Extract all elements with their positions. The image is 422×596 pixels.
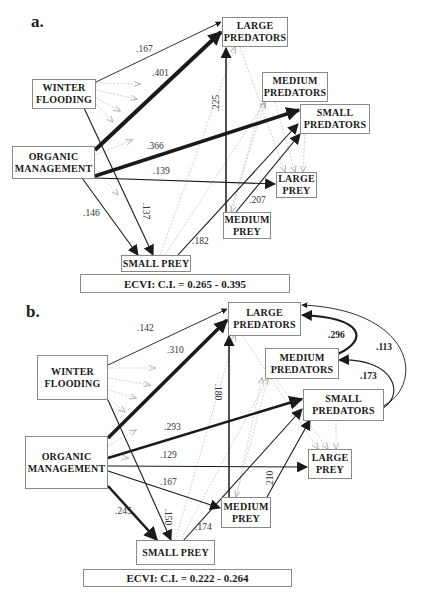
path-coef: .245 [115,506,132,516]
fit-index-box-b: ECVI: C.I. = 0.222 - 0.264 [83,569,292,587]
path-coef: .129 [160,450,177,460]
node-medium-prey: MEDIUM PREY [223,212,271,239]
node-label: PREDATORS [312,405,375,417]
node-label: ORGANIC [42,451,92,463]
node-label: PREDATORS [304,119,367,131]
node-small-predators: SMALL PREDATORS [300,104,370,134]
node-large-predators: LARGE PREDATORS [228,302,301,336]
node-small-prey: SMALL PREY [121,255,191,272]
node-medium-prey: MEDIUM PREY [221,497,271,528]
path-coef: .210 [265,471,275,488]
node-label: SMALL [317,107,354,119]
path-coef: .113 [376,342,392,352]
path-coef: .296 [328,330,345,340]
fit-index-box-a: ECVI: C.I. = 0.265 - 0.395 [80,274,290,293]
node-label: MANAGEMENT [15,163,93,175]
node-label: LARGE [246,307,283,319]
node-organic-management: ORGANIC MANAGEMENT [25,436,108,489]
node-winter-flooding: WINTER FLOODING [32,79,96,109]
path-coef: .142 [137,323,154,333]
panel-label-b: b. [26,302,40,322]
node-label: SMALL PREY [123,258,190,270]
path-coef: .174 [195,522,212,532]
node-label: LARGE [237,20,274,32]
node-winter-flooding: WINTER FLOODING [37,355,108,400]
path-coef: .180 [213,384,223,401]
path-coef: .167 [160,477,177,487]
path-coef: .146 [83,208,100,218]
node-medium-predators: MEDIUM PREDATORS [265,348,339,379]
path-coef: .173 [360,371,377,381]
node-label: MEDIUM [223,501,268,513]
node-label: PREDATORS [271,364,334,376]
node-label: WINTER [51,366,94,378]
path-coef: .293 [164,422,181,432]
node-large-predators: LARGE PREDATORS [222,17,288,47]
node-large-prey: LARGE PREY [276,172,317,198]
path-coef: .139 [153,166,170,176]
node-label: MANAGEMENT [28,463,106,475]
node-label: PREY [233,226,261,238]
node-label: WINTER [43,82,86,94]
node-label: LARGE [312,452,349,464]
node-medium-predators: MEDIUM PREDATORS [262,72,328,102]
path-coef: .366 [147,141,164,151]
node-label: MEDIUM [279,352,324,364]
node-small-prey: SMALL PREY [136,540,215,565]
path-coef: .310 [167,345,184,355]
path-coef: .207 [249,195,266,205]
node-label: MEDIUM [224,214,269,226]
path-coef: .225 [211,95,221,112]
node-label: PREY [282,185,310,197]
node-label: SMALL [325,393,362,405]
node-organic-management: ORGANIC MANAGEMENT [12,146,95,179]
panel-label-a: a. [31,12,44,32]
node-label: PREY [232,513,260,525]
node-label: PREDATORS [264,87,327,99]
node-label: PREY [316,464,344,476]
path-coef: .167 [136,44,153,54]
node-label: SMALL PREY [142,547,209,559]
path-coef: .401 [152,68,169,78]
node-label: ORGANIC [29,151,79,163]
node-label: MEDIUM [272,75,317,87]
node-label: PREDATORS [233,319,296,331]
path-coef: .150 [163,509,173,526]
path-coef: .182 [192,236,209,246]
path-coef: .137 [141,203,151,220]
node-label: PREDATORS [224,32,287,44]
node-label: FLOODING [44,378,100,390]
node-label: LARGE [278,173,315,185]
node-small-predators: SMALL PREDATORS [303,389,384,421]
node-label: FLOODING [36,94,92,106]
node-large-prey: LARGE PREY [308,449,352,479]
